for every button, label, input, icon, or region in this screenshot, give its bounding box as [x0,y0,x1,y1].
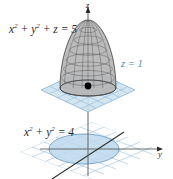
surface-equation-label: x2 + y2 + z = 5 [9,24,77,36]
circle-eq-tail: = 4 [55,126,74,138]
surface-eq-tail: + z = 5 [40,23,77,35]
plane-equation-label: z = 1 [121,59,143,70]
surface-eq-plus: + [18,23,32,35]
intersection-point-marker [85,83,92,90]
circle-eq-plus: + [33,126,47,138]
z-axis-label: z [86,1,89,10]
circle-equation-label: x2 + y2 = 4 [24,127,74,139]
y-axis-label: y [158,150,162,159]
